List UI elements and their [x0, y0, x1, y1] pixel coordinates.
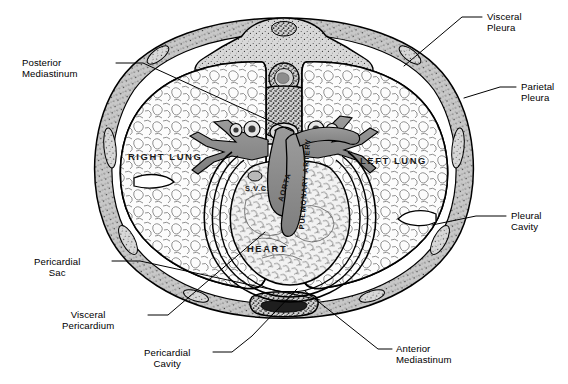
thorax-cross-section-figure: PosteriorMediastinumVisceralPleuraPariet…	[0, 0, 568, 384]
callout-label-line: Pleural	[511, 210, 542, 221]
callout-label-line: Anterior	[396, 343, 452, 354]
callout-label-line: Visceral	[487, 11, 522, 22]
figure-label-heart: HEART	[247, 243, 287, 254]
callout-label-line: Mediastinum	[396, 354, 452, 365]
callout-label-anterior-mediastinum: AnteriorMediastinum	[396, 343, 452, 366]
figure-label-right-lung: RIGHT LUNG	[128, 151, 202, 162]
callout-label-line: Mediastinum	[22, 68, 78, 79]
callout-label-line: Pericardium	[62, 320, 114, 331]
callout-label-pleural-cavity: PleuralCavity	[511, 210, 542, 233]
callout-label-line: Pleura	[521, 92, 554, 103]
callout-label-line: Pleura	[487, 22, 522, 33]
callout-label-line: Sac	[34, 267, 80, 278]
callout-label-pericardial-sac: PericardialSac	[34, 256, 80, 279]
callout-label-line: Pericardial	[34, 256, 80, 267]
callout-label-line: Pericardial	[144, 347, 190, 358]
callout-label-pericardial-cavity: PericardialCavity	[144, 347, 190, 370]
callout-label-line: Cavity	[144, 358, 190, 369]
callout-label-visceral-pericardium: VisceralPericardium	[62, 309, 114, 332]
superior-vena-cava	[248, 171, 262, 181]
callout-label-parietal-pleura: ParietalPleura	[521, 81, 554, 104]
callout-label-line: Posterior	[22, 57, 78, 68]
leader-line-parietal-pleura	[464, 87, 516, 98]
callout-label-posterior-mediastinum: PosteriorMediastinum	[22, 57, 78, 80]
callout-label-line: Visceral	[62, 309, 114, 320]
callout-label-visceral-pleura: VisceralPleura	[487, 11, 522, 34]
figure-label-left-lung: LEFT LUNG	[360, 155, 427, 166]
callout-label-line: Parietal	[521, 81, 554, 92]
figure-label-svc: S.V.C.	[245, 184, 269, 193]
callout-label-line: Cavity	[511, 221, 542, 232]
